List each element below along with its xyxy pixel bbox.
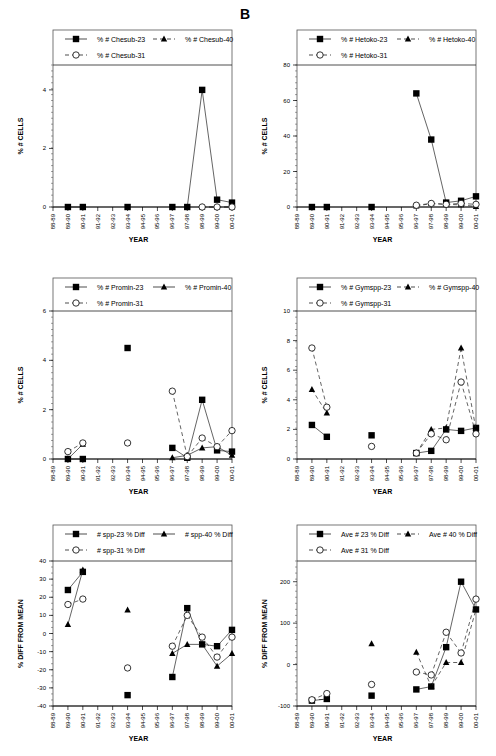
x-tick-label: 89-90 <box>65 465 71 481</box>
x-tick-label: 97-98 <box>428 465 434 481</box>
legend-item: % # Gymspp-40 <box>397 284 479 292</box>
x-tick-label: 00-01 <box>229 712 235 728</box>
data-point <box>214 643 220 649</box>
x-tick-label: 96-97 <box>169 465 175 481</box>
data-point <box>473 431 479 437</box>
data-point <box>124 440 130 446</box>
data-point <box>169 643 175 649</box>
y-tick-label: 0 <box>287 662 291 668</box>
legend-label: % # Gymspp-31 <box>341 300 391 308</box>
data-point <box>458 345 464 351</box>
x-tick-label: 00-01 <box>229 213 235 229</box>
y-tick-label: 6 <box>287 367 291 373</box>
data-point <box>443 644 449 650</box>
data-point <box>309 697 315 703</box>
data-point <box>458 650 464 656</box>
x-tick-label: 97-98 <box>184 465 190 481</box>
x-tick-label: 96-97 <box>413 712 419 728</box>
legend-label: Ave # 23 % Diff <box>341 531 389 538</box>
legend-item: % # Promin-23 <box>65 284 143 291</box>
x-tick-label: 97-98 <box>428 712 434 728</box>
data-point <box>199 397 205 403</box>
x-axis-label: YEAR <box>373 236 392 243</box>
x-tick-label: 94-95 <box>140 465 146 481</box>
legend-item: % # Gymspp-31 <box>309 300 391 308</box>
data-point <box>124 606 130 612</box>
y-tick-label: 0 <box>43 204 47 210</box>
x-tick-label: 99-00 <box>214 712 220 728</box>
triangle-marker-icon <box>405 531 411 537</box>
x-tick-label: 92-93 <box>354 465 360 481</box>
series--promin-40 <box>65 441 235 462</box>
data-point <box>309 345 315 351</box>
legend-item: % # Hetoko-40 <box>397 36 475 43</box>
data-point <box>80 456 86 462</box>
x-tick-label: 97-98 <box>184 213 190 229</box>
y-tick-label: 60 <box>283 98 290 104</box>
y-tick-label: 30 <box>39 576 46 582</box>
y-axis-label: % # CELLS <box>261 117 268 154</box>
series-ave-31-diff <box>309 596 479 703</box>
x-tick-label: 93-94 <box>125 465 131 481</box>
data-point <box>184 204 190 210</box>
data-point <box>458 659 464 665</box>
legend-item: % # Promin-31 <box>65 300 143 307</box>
triangle-marker-icon <box>405 284 411 290</box>
x-tick-label: 91-92 <box>95 213 101 229</box>
data-point <box>413 649 419 655</box>
data-point <box>309 422 315 428</box>
data-point <box>80 204 86 210</box>
chart-panel-gymspp: 0246810% # CELLS88-8989-9090-9191-9292-9… <box>261 278 479 495</box>
y-tick-label: 2 <box>43 407 47 413</box>
x-tick-label: 88-89 <box>50 712 56 728</box>
legend-label: Ave # 31 % Diff <box>341 547 389 554</box>
x-tick-label: 98-99 <box>443 465 449 481</box>
x-tick-label: 98-99 <box>199 213 205 229</box>
data-point <box>443 659 449 665</box>
legend-item: # spp-31 % Diff <box>65 547 145 555</box>
y-tick-label: 4 <box>287 397 291 403</box>
square-marker-icon <box>317 284 323 290</box>
data-point <box>199 204 205 210</box>
x-tick-label: 91-92 <box>95 465 101 481</box>
legend-label: # spp-23 % Diff <box>97 531 145 539</box>
data-point <box>458 579 464 585</box>
y-axis-label: % # CELLS <box>17 366 24 403</box>
data-point <box>65 204 71 210</box>
data-point <box>169 388 175 394</box>
legend-item: # spp-23 % Diff <box>65 531 145 539</box>
y-tick-label: 0 <box>43 456 47 462</box>
x-tick-label: 00-01 <box>473 213 479 229</box>
data-point <box>184 453 190 459</box>
data-point <box>324 404 330 410</box>
x-tick-label: 88-89 <box>294 712 300 728</box>
data-point <box>214 654 220 660</box>
series--gymspp-23 <box>309 422 479 457</box>
x-tick-label: 89-90 <box>309 465 315 481</box>
x-tick-label: 99-00 <box>458 712 464 728</box>
x-tick-label: 95-96 <box>154 712 160 728</box>
legend-label: % # Chesub-23 <box>97 36 145 43</box>
legend-label: % # Chesub-31 <box>97 52 145 59</box>
data-point <box>428 136 434 142</box>
figure-canvas: 024% # CELLS88-8989-9090-9191-9292-9393-… <box>0 0 496 756</box>
legend-item: % # Promin-40 <box>153 284 231 291</box>
x-tick-label: 94-95 <box>140 712 146 728</box>
y-tick-label: 20 <box>39 594 46 600</box>
y-tick-label: 4 <box>43 87 47 93</box>
x-tick-label: 89-90 <box>65 213 71 229</box>
x-tick-label: 00-01 <box>473 712 479 728</box>
circle-marker-icon <box>317 52 323 58</box>
x-tick-label: 90-91 <box>80 465 86 481</box>
data-point <box>443 201 449 207</box>
x-tick-label: 93-94 <box>125 213 131 229</box>
data-point <box>443 629 449 635</box>
data-point <box>413 686 419 692</box>
data-point <box>458 200 464 206</box>
triangle-marker-icon <box>405 36 411 42</box>
data-point <box>413 450 419 456</box>
data-point <box>324 690 330 696</box>
legend-item: # spp-40 % Diff <box>153 531 233 539</box>
square-marker-icon <box>317 531 323 537</box>
x-tick-label: 98-99 <box>443 213 449 229</box>
